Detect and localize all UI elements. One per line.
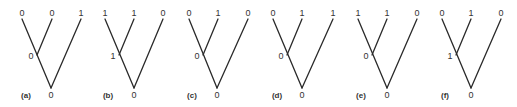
leaf-label-2: 1 xyxy=(215,8,220,18)
caption: (e) xyxy=(356,91,366,100)
edge-middle-leaf-to-internal xyxy=(372,19,387,55)
root-label: 0 xyxy=(214,90,219,100)
internal-node-label: 1 xyxy=(447,51,452,61)
tree-f: 0 1 0 1 0 (f) xyxy=(439,8,503,100)
edge-right-leaf-to-root xyxy=(302,19,333,88)
leaf-label-1: 0 xyxy=(270,8,275,18)
tree-b: 1 1 0 1 0 (b) xyxy=(102,8,165,100)
edge-middle-leaf-to-internal xyxy=(203,19,218,55)
edge-middle-leaf-to-internal xyxy=(37,19,52,55)
internal-node-label: 0 xyxy=(28,51,33,61)
phylogeny-trees-figure: 0 0 1 0 0 (a) 1 1 0 1 0 (b) 0 1 0 0 0 (c… xyxy=(0,0,517,107)
internal-node-label: 1 xyxy=(110,51,115,61)
leaf-label-2: 1 xyxy=(384,8,389,18)
root-label: 0 xyxy=(131,90,136,100)
tree-c: 0 1 0 0 0 (c) xyxy=(186,8,250,100)
tree-d: 0 1 1 0 0 (d) xyxy=(270,8,335,100)
leaf-label-1: 1 xyxy=(102,8,107,18)
internal-node-label: 0 xyxy=(363,51,368,61)
leaf-label-2: 1 xyxy=(468,8,473,18)
leaf-label-1: 0 xyxy=(439,8,444,18)
tree-e: 1 1 0 0 0 (e) xyxy=(355,8,419,100)
edge-right-leaf-to-root xyxy=(471,19,501,88)
edge-middle-leaf-to-internal xyxy=(287,19,302,55)
caption: (c) xyxy=(187,91,197,100)
root-label: 0 xyxy=(384,90,389,100)
edge-right-leaf-to-root xyxy=(387,19,417,88)
tree-a: 0 0 1 0 0 (a) xyxy=(19,8,83,100)
edge-middle-leaf-to-internal xyxy=(119,19,134,55)
leaf-label-3: 0 xyxy=(160,8,165,18)
caption: (b) xyxy=(103,91,114,100)
root-label: 0 xyxy=(468,90,473,100)
leaf-label-2: 1 xyxy=(299,8,304,18)
edge-right-leaf-to-root xyxy=(217,19,248,88)
caption: (d) xyxy=(272,91,283,100)
root-label: 0 xyxy=(48,90,53,100)
root-label: 0 xyxy=(299,90,304,100)
caption: (f) xyxy=(441,91,449,100)
edge-left-leaf-to-root xyxy=(22,19,51,88)
leaf-label-2: 1 xyxy=(131,8,136,18)
leaf-label-3: 0 xyxy=(498,8,503,18)
leaf-label-3: 1 xyxy=(330,8,335,18)
leaf-label-3: 1 xyxy=(78,8,83,18)
edge-right-leaf-to-root xyxy=(134,19,163,88)
leaf-label-1: 1 xyxy=(355,8,360,18)
internal-node-label: 0 xyxy=(278,51,283,61)
leaf-label-1: 0 xyxy=(186,8,191,18)
leaf-label-1: 0 xyxy=(19,8,24,18)
internal-node-label: 0 xyxy=(194,51,199,61)
leaf-label-3: 0 xyxy=(414,8,419,18)
edge-middle-leaf-to-internal xyxy=(456,19,471,55)
leaf-label-2: 0 xyxy=(49,8,54,18)
caption: (a) xyxy=(21,91,31,100)
edge-right-leaf-to-root xyxy=(51,19,81,88)
leaf-label-3: 0 xyxy=(245,8,250,18)
